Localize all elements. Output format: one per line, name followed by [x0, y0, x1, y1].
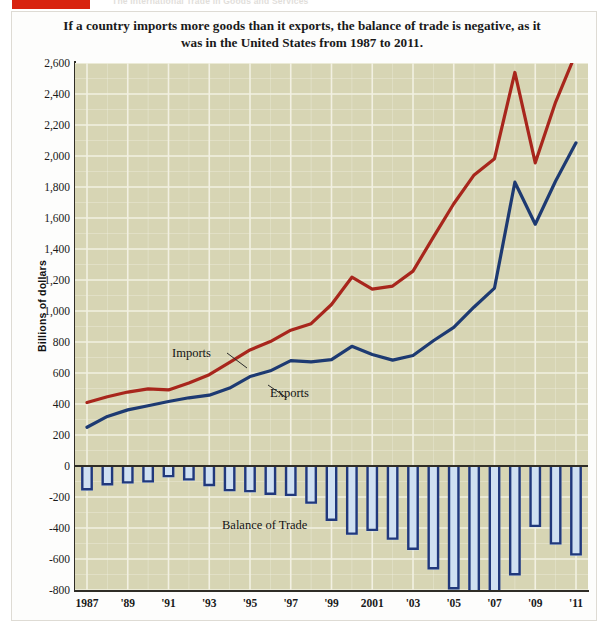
y-axis-tick-label: 1,600: [8, 212, 70, 224]
y-axis-tick-label: -200: [8, 491, 70, 503]
plot-area: [75, 63, 588, 590]
x-axis-tick-label: '93: [202, 597, 217, 609]
x-axis-tick-label: '89: [120, 597, 135, 609]
x-axis-tick-label: '05: [446, 597, 461, 609]
x-axis-tick-label: '91: [161, 597, 176, 609]
x-axis-rule: [74, 590, 589, 592]
x-axis-tick-label: '07: [487, 597, 502, 609]
x-axis-tick-label: '95: [243, 597, 258, 609]
y-axis-tick-label: 2,000: [8, 150, 70, 162]
y-axis-tick-label: 1,400: [8, 243, 70, 255]
x-axis-tick-label: '09: [528, 597, 543, 609]
running-head-text: The International Trade in Goods and Ser…: [112, 0, 309, 6]
annotation-exports: Exports: [270, 386, 309, 401]
y-axis-tick-label: 1,200: [8, 274, 70, 286]
annotation-balance-of-trade: Balance of Trade: [222, 518, 307, 533]
figure-page: The International Trade in Goods and Ser…: [0, 0, 608, 632]
y-axis-tick-label: 2,400: [8, 88, 70, 100]
y-axis-tick-label: -600: [8, 553, 70, 565]
plot-svg: [75, 63, 588, 590]
y-axis-tick-label: 600: [8, 367, 70, 379]
y-axis-tick-label: 0: [8, 460, 70, 472]
y-axis-tick-label: -400: [8, 522, 70, 534]
y-axis-tick-label: -800: [8, 584, 70, 596]
y-axis-tick-label: 2,600: [8, 57, 70, 69]
y-axis-tick-label: 1,000: [8, 305, 70, 317]
figure-title: If a country imports more goods than it …: [52, 18, 552, 51]
page-top-strip: The International Trade in Goods and Ser…: [0, 0, 608, 11]
x-axis-tick-label: 2001: [361, 597, 384, 609]
y-axis-tick-label: 400: [8, 398, 70, 410]
x-axis-tick-label: '97: [283, 597, 298, 609]
y-axis-tick-group: 2,6002,4002,2002,0001,8001,6001,4001,200…: [4, 0, 70, 632]
x-axis-tick-label: '03: [406, 597, 421, 609]
y-axis-tick-label: 1,800: [8, 181, 70, 193]
x-axis-tick-label: '11: [569, 597, 583, 609]
x-axis-tick-label: 1987: [76, 597, 99, 609]
x-axis-tick-label: '99: [324, 597, 339, 609]
y-axis-tick-label: 200: [8, 429, 70, 441]
y-axis-tick-label: 800: [8, 336, 70, 348]
annotation-imports: Imports: [172, 346, 211, 361]
y-axis-tick-label: 2,200: [8, 119, 70, 131]
